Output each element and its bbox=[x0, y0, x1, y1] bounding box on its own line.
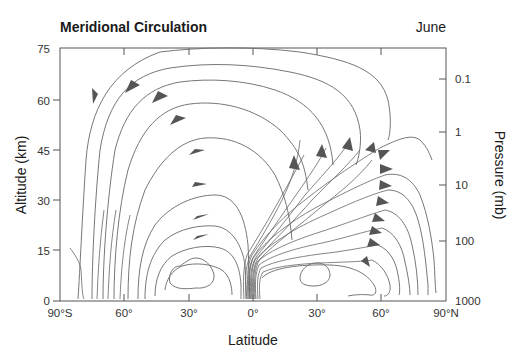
arrow-icon bbox=[361, 256, 370, 267]
arrow-icon bbox=[193, 214, 209, 220]
chart-title: Meridional Circulation bbox=[60, 19, 207, 35]
arrow-icon bbox=[193, 234, 209, 240]
y-tick-label: 0 bbox=[44, 295, 50, 307]
arrow-icon bbox=[380, 164, 393, 174]
y-tick-label: 15 bbox=[37, 245, 50, 257]
arrow-icon bbox=[369, 226, 382, 235]
y-tick-label: 75 bbox=[37, 43, 50, 55]
arrow-icon bbox=[170, 115, 186, 125]
arrow-icon bbox=[376, 196, 389, 206]
x-tick-label: 60° bbox=[115, 307, 132, 319]
x-tick-label: 30° bbox=[308, 307, 325, 319]
y-tick-label: 45 bbox=[37, 145, 50, 157]
x-tick-label: 30° bbox=[180, 307, 197, 319]
pressure-tick-label: 10 bbox=[455, 179, 468, 191]
x-tick-label: 60° bbox=[372, 307, 389, 319]
pressure-tick-label: 1 bbox=[455, 126, 461, 138]
arrow-icon bbox=[379, 180, 392, 190]
left-y-axis: 0 15 30 45 60 75 bbox=[37, 43, 60, 307]
arrow-icon bbox=[378, 150, 390, 160]
arrow-icon bbox=[289, 155, 300, 170]
arrow-icon bbox=[372, 213, 385, 222]
y-tick-label: 30 bbox=[37, 195, 50, 207]
x-axis-label: Latitude bbox=[228, 332, 278, 348]
pressure-tick-label: 0.1 bbox=[455, 73, 471, 85]
y-tick-label: 60 bbox=[37, 95, 50, 107]
arrow-icon bbox=[152, 91, 168, 103]
pressure-tick-label: 100 bbox=[455, 235, 474, 247]
arrow-icon bbox=[316, 144, 327, 158]
y-axis-label-left: Altitude (km) bbox=[13, 136, 29, 215]
flow-arrows bbox=[92, 80, 393, 267]
arrow-icon bbox=[367, 238, 380, 247]
meridional-circulation-chart: Meridional Circulation June 0 15 30 45 6… bbox=[0, 0, 510, 358]
pressure-tick-label: 1000 bbox=[455, 295, 481, 307]
x-tick-label: 90°S bbox=[47, 307, 72, 319]
y-axis-label-right: Pressure (mb) bbox=[492, 131, 508, 220]
chart-month: June bbox=[416, 19, 447, 35]
arrow-icon bbox=[365, 142, 376, 153]
x-tick-label: 0° bbox=[248, 307, 259, 319]
arrow-icon bbox=[189, 149, 205, 155]
arrow-icon bbox=[92, 88, 98, 104]
x-tick-label: 90°N bbox=[433, 307, 459, 319]
arrow-icon bbox=[342, 137, 353, 151]
right-y-axis: 1000 100 10 1 0.1 bbox=[439, 73, 481, 307]
arrow-icon bbox=[125, 80, 140, 93]
arrow-icon bbox=[192, 182, 207, 187]
